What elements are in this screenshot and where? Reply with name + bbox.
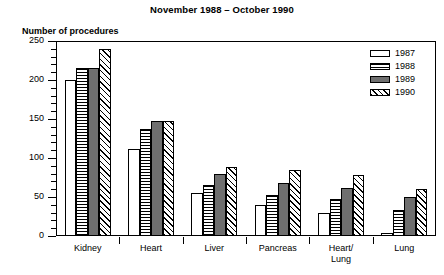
x-axis-category-label: Lung bbox=[373, 243, 436, 254]
x-axis-category-label: Heart/Lung bbox=[309, 243, 372, 264]
chart-legend: 1987198819891990 bbox=[370, 47, 432, 99]
y-axis-tick-major bbox=[48, 80, 56, 81]
bar bbox=[393, 210, 405, 236]
bar bbox=[88, 68, 100, 236]
legend-swatch-icon bbox=[370, 89, 390, 96]
y-axis-tick-major bbox=[48, 197, 56, 198]
bar bbox=[151, 121, 163, 236]
legend-item[interactable]: 1987 bbox=[370, 47, 432, 60]
bar bbox=[128, 149, 140, 236]
bar bbox=[353, 175, 365, 236]
bar bbox=[203, 185, 215, 236]
legend-item[interactable]: 1990 bbox=[370, 86, 432, 99]
y-axis-tick-label: 0 bbox=[0, 231, 44, 240]
legend-swatch-icon bbox=[370, 50, 390, 57]
bar bbox=[65, 80, 77, 236]
legend-swatch-icon bbox=[370, 76, 390, 83]
bar bbox=[381, 233, 393, 236]
bar bbox=[255, 205, 267, 236]
bar bbox=[318, 213, 330, 236]
bar bbox=[226, 167, 238, 236]
y-axis-tick-major bbox=[48, 119, 56, 120]
bar bbox=[266, 195, 278, 236]
x-axis-category-label: Pancreas bbox=[246, 243, 309, 254]
legend-item[interactable]: 1988 bbox=[370, 60, 432, 73]
bar bbox=[330, 199, 342, 236]
legend-label: 1990 bbox=[395, 88, 415, 97]
bar bbox=[289, 170, 301, 236]
bar bbox=[163, 121, 175, 236]
y-axis-tick-major bbox=[48, 236, 56, 237]
x-axis-category-label: Liver bbox=[183, 243, 246, 254]
y-axis-tick-label: 150 bbox=[0, 114, 44, 123]
y-axis-tick-label: 100 bbox=[0, 153, 44, 162]
bar bbox=[214, 174, 226, 236]
legend-swatch-icon bbox=[370, 63, 390, 70]
y-axis-tick-label: 50 bbox=[0, 192, 44, 201]
x-axis-category-label: Kidney bbox=[56, 243, 119, 254]
bar bbox=[76, 68, 88, 236]
chart-title: November 1988 – October 1990 bbox=[0, 4, 444, 15]
bar bbox=[140, 129, 152, 236]
x-axis-category-label: Heart bbox=[119, 243, 182, 254]
y-axis-tick-label: 250 bbox=[0, 36, 44, 45]
legend-label: 1987 bbox=[395, 49, 415, 58]
bar bbox=[416, 189, 428, 236]
bar bbox=[341, 188, 353, 236]
bar bbox=[404, 197, 416, 236]
bar bbox=[278, 183, 290, 236]
bar bbox=[191, 193, 203, 236]
legend-label: 1989 bbox=[395, 75, 415, 84]
y-axis-tick-label: 200 bbox=[0, 75, 44, 84]
legend-item[interactable]: 1989 bbox=[370, 73, 432, 86]
y-axis-tick-major bbox=[48, 41, 56, 42]
bar bbox=[99, 49, 111, 236]
legend-label: 1988 bbox=[395, 62, 415, 71]
bar-chart: November 1988 – October 1990 Number of p… bbox=[0, 0, 444, 275]
y-axis-tick-major bbox=[48, 158, 56, 159]
